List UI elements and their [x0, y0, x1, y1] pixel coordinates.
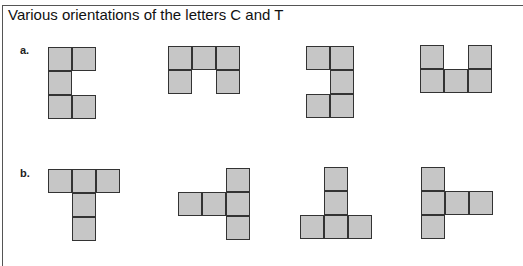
grid-square	[216, 46, 240, 70]
figure-title: Various orientations of the letters C an…	[8, 6, 283, 23]
grid-square	[330, 46, 354, 70]
row-label-b: b.	[20, 167, 30, 179]
grid-square	[72, 47, 96, 71]
grid-square	[48, 47, 72, 71]
grid-square	[216, 70, 240, 94]
grid-square	[421, 167, 445, 191]
grid-square	[72, 193, 96, 217]
grid-square	[202, 192, 226, 216]
grid-square	[226, 216, 250, 240]
grid-square	[72, 217, 96, 241]
grid-square	[96, 169, 120, 193]
grid-square	[48, 71, 72, 95]
grid-square	[48, 169, 72, 193]
grid-square	[168, 46, 192, 70]
row-label-a: a.	[20, 44, 29, 56]
grid-square	[306, 94, 330, 118]
grid-square	[72, 169, 96, 193]
grid-square	[468, 45, 492, 69]
grid-square	[178, 192, 202, 216]
grid-square	[348, 215, 372, 239]
grid-square	[468, 69, 492, 93]
grid-square	[48, 95, 72, 119]
grid-square	[420, 45, 444, 69]
grid-square	[324, 215, 348, 239]
grid-square	[300, 215, 324, 239]
grid-square	[420, 69, 444, 93]
grid-square	[469, 191, 493, 215]
grid-square	[421, 191, 445, 215]
grid-square	[445, 191, 469, 215]
grid-square	[168, 70, 192, 94]
grid-square	[330, 70, 354, 94]
grid-square	[421, 215, 445, 239]
grid-square	[226, 168, 250, 192]
grid-square	[324, 167, 348, 191]
grid-square	[306, 46, 330, 70]
grid-square	[444, 69, 468, 93]
grid-square	[72, 95, 96, 119]
grid-square	[192, 46, 216, 70]
grid-square	[324, 191, 348, 215]
grid-square	[330, 94, 354, 118]
grid-square	[226, 192, 250, 216]
